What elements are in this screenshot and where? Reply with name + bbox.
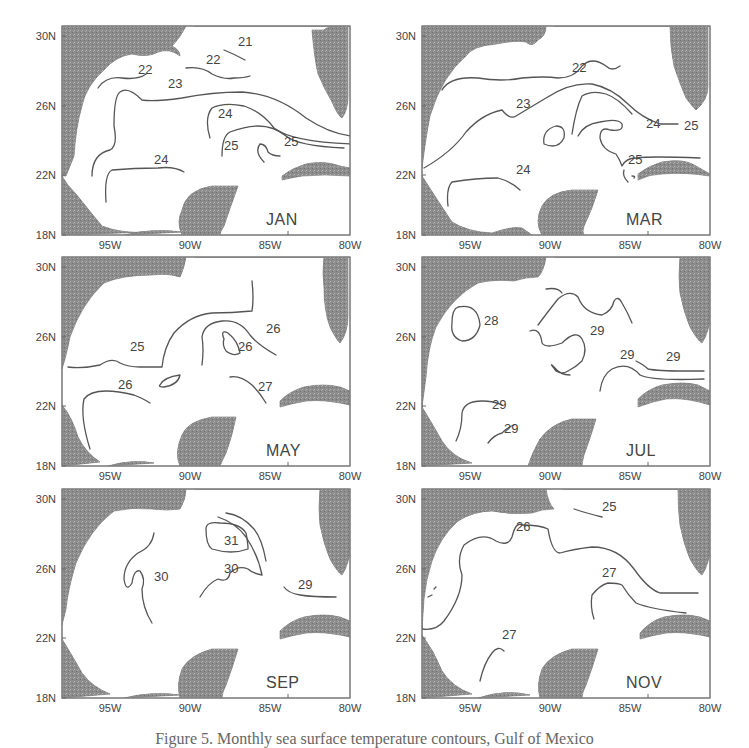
map-panel-may: 2526262627MAY30N26N22N18N95W90W85W80W bbox=[22, 247, 362, 479]
isotherm-label: 29 bbox=[666, 349, 680, 364]
isotherm-label: 22 bbox=[138, 62, 152, 77]
x-tick-label: 95W bbox=[459, 702, 482, 714]
y-tick-label: 22N bbox=[36, 169, 56, 181]
isotherm-label: 29 bbox=[298, 577, 312, 592]
month-label: NOV bbox=[626, 674, 662, 691]
x-tick-label: 85W bbox=[619, 702, 642, 714]
y-tick-label: 30N bbox=[396, 261, 416, 273]
isotherm-label: 24 bbox=[154, 152, 168, 167]
isotherm-label: 25 bbox=[602, 499, 616, 514]
y-tick-label: 26N bbox=[396, 331, 416, 343]
isotherm-label: 27 bbox=[258, 379, 272, 394]
y-tick-label: 30N bbox=[396, 30, 416, 42]
isotherm-label: 26 bbox=[118, 377, 132, 392]
y-tick-label: 30N bbox=[36, 493, 56, 505]
isotherm-label: 23 bbox=[516, 96, 530, 111]
y-tick-label: 18N bbox=[36, 460, 56, 472]
y-tick-label: 18N bbox=[396, 460, 416, 472]
isotherm-label: 29 bbox=[590, 323, 604, 338]
isotherm-label: 23 bbox=[168, 76, 182, 91]
y-tick-label: 26N bbox=[396, 563, 416, 575]
y-tick-label: 22N bbox=[36, 400, 56, 412]
y-tick-label: 18N bbox=[396, 692, 416, 704]
isotherm-label: 25 bbox=[628, 152, 642, 167]
map-panel-mar: 222324252425MAR30N26N22N18N95W90W85W80W bbox=[382, 16, 722, 248]
month-label: JAN bbox=[266, 211, 298, 228]
x-tick-label: 90W bbox=[179, 702, 202, 714]
map-panel-jul: 282929292929JUL30N26N22N18N95W90W85W80W bbox=[382, 247, 722, 479]
isotherm-label: 30 bbox=[154, 569, 168, 584]
isotherm-label: 29 bbox=[620, 347, 634, 362]
month-label: MAR bbox=[626, 211, 663, 228]
isotherm-label: 29 bbox=[492, 397, 506, 412]
isotherm-label: 25 bbox=[284, 134, 298, 149]
isotherm-label: 25 bbox=[224, 138, 238, 153]
map-panel-jan: 2122222324242525JAN30N26N22N18N95W90W85W… bbox=[22, 16, 362, 248]
isotherm-label: 25 bbox=[684, 118, 698, 133]
x-tick-label: 90W bbox=[539, 702, 562, 714]
y-tick-label: 30N bbox=[36, 30, 56, 42]
y-tick-label: 26N bbox=[36, 100, 56, 112]
x-tick-label: 95W bbox=[99, 702, 122, 714]
map-panel-nov: 25262727NOV30N26N22N18N95W90W85W80W bbox=[382, 479, 722, 711]
figure-caption: Figure 5. Monthly sea surface temperatur… bbox=[0, 730, 749, 748]
y-tick-label: 22N bbox=[396, 400, 416, 412]
isotherm-label: 24 bbox=[218, 106, 232, 121]
x-tick-label: 85W bbox=[259, 702, 282, 714]
isotherm-label: 22 bbox=[206, 52, 220, 67]
y-tick-label: 22N bbox=[396, 632, 416, 644]
y-tick-label: 26N bbox=[36, 563, 56, 575]
isotherm-label: 26 bbox=[266, 321, 280, 336]
isotherm-label: 29 bbox=[504, 421, 518, 436]
x-tick-label: 80W bbox=[339, 702, 362, 714]
isotherm-label: 22 bbox=[572, 60, 586, 75]
isotherm-label: 31 bbox=[224, 533, 238, 548]
month-label: JUL bbox=[626, 442, 656, 459]
isotherm-label: 24 bbox=[516, 162, 530, 177]
month-label: SEP bbox=[266, 674, 300, 691]
y-tick-label: 30N bbox=[36, 261, 56, 273]
isotherm-label: 26 bbox=[516, 519, 530, 534]
y-tick-label: 22N bbox=[396, 169, 416, 181]
isotherm-label: 28 bbox=[484, 313, 498, 328]
isotherm-label: 25 bbox=[130, 339, 144, 354]
isotherm-label: 30 bbox=[224, 561, 238, 576]
isotherm-label: 24 bbox=[646, 116, 660, 131]
y-tick-label: 30N bbox=[396, 493, 416, 505]
isotherm-label: 27 bbox=[602, 565, 616, 580]
y-tick-label: 18N bbox=[396, 229, 416, 241]
isotherm-label: 27 bbox=[502, 627, 516, 642]
isotherm-label: 21 bbox=[238, 34, 252, 49]
y-tick-label: 26N bbox=[36, 331, 56, 343]
y-tick-label: 22N bbox=[36, 632, 56, 644]
month-label: MAY bbox=[266, 442, 301, 459]
x-tick-label: 80W bbox=[699, 702, 722, 714]
map-panel-sep: 30313029SEP30N26N22N18N95W90W85W80W bbox=[22, 479, 362, 711]
y-tick-label: 26N bbox=[396, 100, 416, 112]
y-tick-label: 18N bbox=[36, 229, 56, 241]
y-tick-label: 18N bbox=[36, 692, 56, 704]
